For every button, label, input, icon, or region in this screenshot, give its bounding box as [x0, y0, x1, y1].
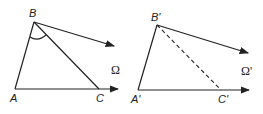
label-b-prime: B': [151, 11, 161, 23]
label-omega-prime: Ω': [241, 64, 252, 78]
segment-ab: [15, 22, 34, 89]
label-b: B: [29, 7, 36, 19]
label-a: A: [9, 92, 17, 104]
ray-b-prime-arrow: [157, 25, 248, 53]
label-omega: Ω: [111, 63, 120, 77]
diagram: B A C Ω B' A' C' Ω': [0, 0, 263, 114]
label-c-prime: C': [218, 93, 229, 105]
right-figure: B' A' C' Ω': [130, 11, 252, 105]
segment-a-prime-b-prime: [138, 25, 157, 90]
label-a-prime: A': [130, 93, 141, 105]
label-c: C: [96, 92, 104, 104]
angle-arc: [30, 35, 46, 39]
left-figure: B A C Ω: [9, 7, 120, 104]
